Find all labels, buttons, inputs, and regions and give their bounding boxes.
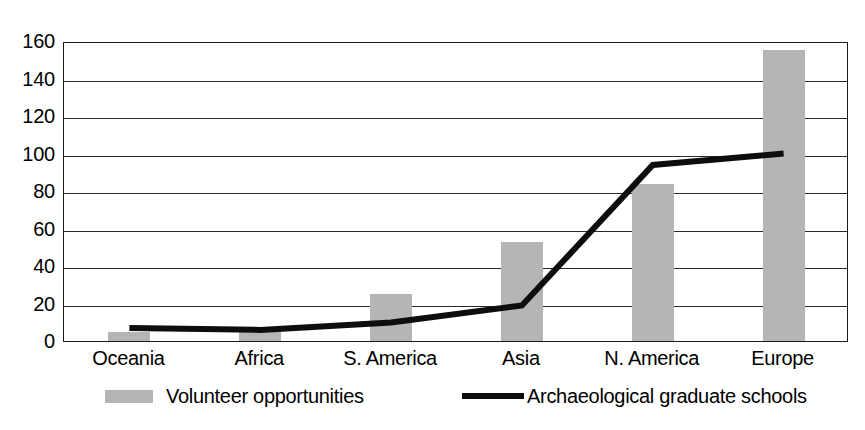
line-path xyxy=(129,154,783,330)
chart-figure: 020406080100120140160 OceaniaAfricaS. Am… xyxy=(0,0,865,430)
chart-legend: Volunteer opportunities Archaeological g… xyxy=(0,384,865,418)
y-axis-tick-label: 140 xyxy=(0,69,55,89)
x-axis-tick-label: Europe xyxy=(693,347,865,369)
y-axis-tick-label: 20 xyxy=(0,294,55,314)
y-axis-tick-label: 80 xyxy=(0,181,55,201)
line-series-archaeological-graduate-schools xyxy=(64,43,849,343)
legend-label-volunteer-opportunities: Volunteer opportunities xyxy=(166,384,364,408)
legend-bar-swatch-icon xyxy=(105,390,153,403)
legend-label-archaeological-graduate-schools: Archaeological graduate schools xyxy=(527,384,807,408)
legend-item-archaeological-graduate-schools: Archaeological graduate schools xyxy=(462,384,807,408)
legend-line-swatch-icon xyxy=(462,393,524,399)
y-axis-tick-label: 120 xyxy=(0,106,55,126)
legend-item-volunteer-opportunities: Volunteer opportunities xyxy=(105,384,364,408)
y-axis-tick-label: 40 xyxy=(0,256,55,276)
y-axis-tick-label: 100 xyxy=(0,144,55,164)
y-axis-tick-label: 160 xyxy=(0,31,55,51)
y-axis-tick-label: 60 xyxy=(0,219,55,239)
plot-area xyxy=(63,42,848,342)
